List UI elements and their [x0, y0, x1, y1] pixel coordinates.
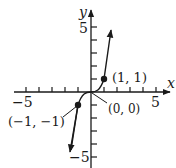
- point-label-1-1: (1, 1): [112, 70, 147, 85]
- point-1-1: [101, 76, 107, 82]
- cubic-function-graph: y x 5 −5 −5 5 (1, 1) (0, 0) (−1, −1): [0, 0, 176, 168]
- y-axis-label: y: [78, 4, 88, 20]
- y-min-label: −5: [69, 149, 90, 165]
- leader-neg: [63, 106, 77, 117]
- x-min-label: −5: [12, 94, 33, 110]
- point-label-neg: (−1, −1): [8, 114, 65, 129]
- leader-origin: [92, 93, 107, 103]
- point-label-origin: (0, 0): [108, 102, 140, 116]
- y-max-label: 5: [79, 20, 88, 36]
- x-axis-label: x: [167, 75, 175, 91]
- cubic-curve-lower-arrow: [70, 105, 78, 152]
- x-max-label: 5: [151, 94, 160, 110]
